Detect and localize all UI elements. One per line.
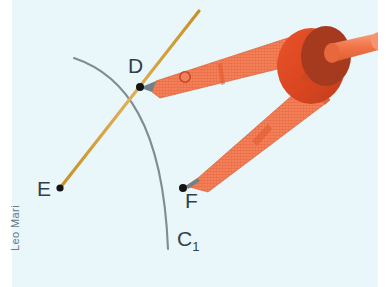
compass-hinge-body (277, 26, 386, 104)
label-point-d: D (128, 55, 143, 76)
label-point-f: F (185, 190, 198, 211)
label-arc-c1: C1 (177, 228, 199, 253)
label-c-base: C (177, 227, 192, 250)
label-point-e: E (37, 178, 51, 199)
point-d-marker (136, 83, 144, 91)
label-c-subscript: 1 (192, 239, 199, 254)
right-margin (378, 0, 386, 287)
ray-ed (60, 11, 199, 188)
figure-canvas: D E F C1 Leo Mari (0, 0, 386, 287)
point-markers (56, 83, 187, 192)
point-e-marker (56, 184, 63, 191)
